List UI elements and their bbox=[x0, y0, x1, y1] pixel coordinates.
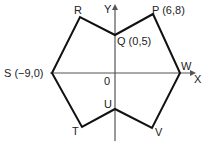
label-P: P (6,8) bbox=[152, 4, 185, 16]
label-x-axis: X bbox=[194, 73, 202, 85]
label-T: T bbox=[72, 125, 79, 137]
label-W: W bbox=[181, 60, 192, 72]
geometry-diagram: R Y P (6,8) Q (0,5) S (−9,0) W X 0 U T V bbox=[0, 0, 202, 145]
label-S: S (−9,0) bbox=[4, 67, 43, 79]
y-axis-arrow-icon bbox=[112, 4, 118, 10]
label-origin: 0 bbox=[104, 75, 110, 87]
label-y-axis: Y bbox=[104, 3, 112, 15]
label-U: U bbox=[104, 98, 112, 110]
label-R: R bbox=[74, 4, 82, 16]
label-Q: Q (0,5) bbox=[117, 35, 151, 47]
polygon-shape bbox=[52, 14, 180, 128]
label-V: V bbox=[155, 126, 163, 138]
